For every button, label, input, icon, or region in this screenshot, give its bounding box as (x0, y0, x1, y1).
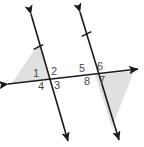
shaded-regions-group (12, 43, 134, 127)
angle-label-5: 5 (79, 63, 85, 74)
angle-label-3: 3 (54, 80, 60, 91)
angle-label-2: 2 (51, 66, 57, 77)
angle-label-7: 7 (99, 75, 105, 86)
left-shaded-angle-region (12, 43, 50, 83)
angle-label-1: 1 (33, 68, 39, 79)
angle-label-6: 6 (97, 61, 103, 72)
geometry-figure: 1 2 4 3 5 6 8 7 (0, 0, 144, 147)
geometry-canvas (0, 0, 144, 147)
angle-label-4: 4 (38, 81, 44, 92)
angle-label-8: 8 (84, 76, 90, 87)
